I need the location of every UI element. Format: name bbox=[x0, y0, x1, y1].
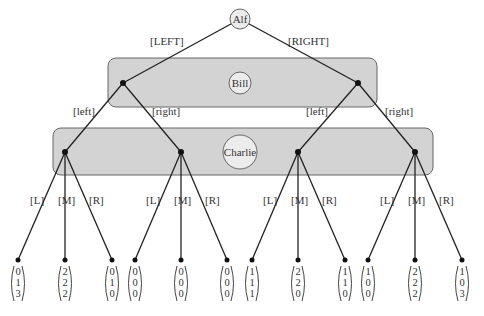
payoff-value: 3 bbox=[459, 288, 464, 299]
payoff-value: 0 bbox=[224, 266, 229, 277]
left-paren bbox=[292, 266, 295, 301]
left-paren bbox=[409, 266, 412, 301]
left-paren bbox=[59, 266, 62, 301]
payoff-value: 0 bbox=[342, 288, 347, 299]
right-paren bbox=[185, 266, 188, 301]
payoff-value: 1 bbox=[342, 266, 347, 277]
charlie-node-4 bbox=[412, 149, 418, 155]
payoff-value: 0 bbox=[15, 266, 20, 277]
payoff-value: 0 bbox=[459, 277, 464, 288]
right-paren bbox=[466, 266, 469, 301]
payoff-value: 0 bbox=[295, 288, 300, 299]
payoff-vector: 222 bbox=[59, 266, 72, 301]
terminal-node bbox=[460, 258, 465, 263]
payoff-value: 0 bbox=[132, 277, 137, 288]
right-paren bbox=[231, 266, 234, 301]
terminal-node bbox=[225, 258, 230, 263]
left-paren bbox=[246, 266, 249, 301]
right-paren bbox=[69, 266, 72, 301]
action-label-bill-left-1: [left] bbox=[73, 105, 95, 117]
payoff-vector: 110 bbox=[339, 266, 352, 301]
action-label-bill-right-2: [right] bbox=[385, 105, 413, 117]
payoff-value: 2 bbox=[62, 266, 67, 277]
payoff-value: 2 bbox=[412, 266, 417, 277]
payoff-vector: 103 bbox=[456, 266, 469, 301]
payoff-vector: 100 bbox=[362, 266, 375, 301]
payoff-value: 0 bbox=[178, 277, 183, 288]
action-label-charlie-M: [M] bbox=[174, 194, 191, 206]
left-paren bbox=[221, 266, 224, 301]
right-paren bbox=[349, 266, 352, 301]
terminal-node bbox=[63, 258, 68, 263]
action-label-bill-right-1: [right] bbox=[152, 105, 180, 117]
action-label-charlie-R: [R] bbox=[89, 194, 104, 206]
payoff-value: 2 bbox=[295, 266, 300, 277]
game-tree: Alf Bill Charlie [LEFT] [RIGHT] [left] [… bbox=[0, 0, 484, 316]
charlie-node-1 bbox=[62, 149, 68, 155]
payoff-value: 1 bbox=[249, 277, 254, 288]
payoff-value: 0 bbox=[224, 277, 229, 288]
payoff-value: 0 bbox=[132, 288, 137, 299]
payoff-value: 0 bbox=[365, 277, 370, 288]
bill-node-1 bbox=[120, 80, 126, 86]
payoff-value: 2 bbox=[62, 277, 67, 288]
action-label-charlie-M: [M] bbox=[291, 194, 308, 206]
action-label-charlie-M: [M] bbox=[408, 194, 425, 206]
payoff-vector: 010 bbox=[106, 266, 119, 301]
payoff-value: 1 bbox=[109, 277, 114, 288]
left-paren bbox=[12, 266, 15, 301]
right-paren bbox=[419, 266, 422, 301]
right-paren bbox=[302, 266, 305, 301]
payoff-value: 0 bbox=[109, 266, 114, 277]
right-paren bbox=[372, 266, 375, 301]
action-label-charlie-L: [L] bbox=[30, 194, 44, 206]
action-label-alf-right: [RIGHT] bbox=[288, 35, 329, 47]
action-label-charlie-R: [R] bbox=[205, 194, 220, 206]
left-paren bbox=[106, 266, 109, 301]
payoff-vectors: 013222010000000000111220110100222103 bbox=[12, 266, 469, 301]
payoff-value: 1 bbox=[249, 288, 254, 299]
payoff-vector: 000 bbox=[221, 266, 234, 301]
payoff-value: 1 bbox=[249, 266, 254, 277]
payoff-value: 3 bbox=[15, 288, 20, 299]
payoff-value: 2 bbox=[412, 288, 417, 299]
payoff-value: 2 bbox=[295, 277, 300, 288]
alf-label: Alf bbox=[233, 13, 248, 25]
terminal-node bbox=[366, 258, 371, 263]
terminal-node bbox=[133, 258, 138, 263]
charlie-node-2 bbox=[178, 149, 184, 155]
payoff-value: 0 bbox=[224, 288, 229, 299]
right-paren bbox=[139, 266, 142, 301]
payoff-vector: 111 bbox=[246, 266, 259, 301]
left-paren bbox=[175, 266, 178, 301]
bill-node-2 bbox=[355, 80, 361, 86]
charlie-label: Charlie bbox=[224, 146, 256, 158]
terminal-node bbox=[179, 258, 184, 263]
payoff-value: 2 bbox=[412, 277, 417, 288]
terminal-node bbox=[296, 258, 301, 263]
payoff-vector: 222 bbox=[409, 266, 422, 301]
terminal-node bbox=[250, 258, 255, 263]
right-paren bbox=[22, 266, 25, 301]
edge-charlie-R-4 bbox=[415, 152, 462, 260]
right-paren bbox=[256, 266, 259, 301]
action-label-charlie-L: [L] bbox=[263, 194, 277, 206]
left-paren bbox=[339, 266, 342, 301]
terminal-node bbox=[110, 258, 115, 263]
action-label-charlie-L: [L] bbox=[146, 194, 160, 206]
edge-charlie-L-1 bbox=[18, 152, 65, 260]
action-label-charlie-L: [L] bbox=[380, 194, 394, 206]
left-paren bbox=[456, 266, 459, 301]
payoff-value: 2 bbox=[62, 288, 67, 299]
action-label-alf-left: [LEFT] bbox=[150, 35, 184, 47]
payoff-value: 0 bbox=[109, 288, 114, 299]
payoff-value: 1 bbox=[459, 266, 464, 277]
terminal-node bbox=[413, 258, 418, 263]
terminal-node bbox=[16, 258, 21, 263]
terminal-node bbox=[343, 258, 348, 263]
payoff-vector: 000 bbox=[175, 266, 188, 301]
payoff-value: 0 bbox=[365, 288, 370, 299]
payoff-vector: 013 bbox=[12, 266, 25, 301]
payoff-value: 1 bbox=[15, 277, 20, 288]
charlie-node-3 bbox=[295, 149, 301, 155]
